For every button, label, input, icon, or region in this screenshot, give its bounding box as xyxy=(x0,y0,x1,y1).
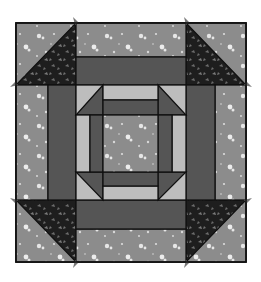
inner-right-light-strip xyxy=(172,115,186,172)
inner-left-light-strip xyxy=(76,115,90,172)
top-speckle-strip xyxy=(76,23,186,57)
center-square xyxy=(103,115,158,172)
bottom-speckle-strip xyxy=(76,229,186,262)
left-speckle-strip xyxy=(16,85,48,200)
quilt-block-figure: Quilt block diagram xyxy=(0,0,261,282)
bottom-dark-bar xyxy=(76,200,186,229)
top-dark-bar xyxy=(76,57,186,85)
inner-left-dark-strip xyxy=(90,115,103,172)
right-dark-bar xyxy=(186,85,215,200)
right-speckle-strip xyxy=(215,85,246,200)
quilt-block-svg xyxy=(0,0,261,282)
inner-bottom-light-strip xyxy=(103,186,158,200)
inner-top-light-strip xyxy=(103,85,158,100)
inner-right-dark-strip xyxy=(158,115,172,172)
inner-bottom-dark-strip xyxy=(103,172,158,186)
inner-top-dark-strip xyxy=(103,100,158,115)
left-dark-bar xyxy=(48,85,76,200)
